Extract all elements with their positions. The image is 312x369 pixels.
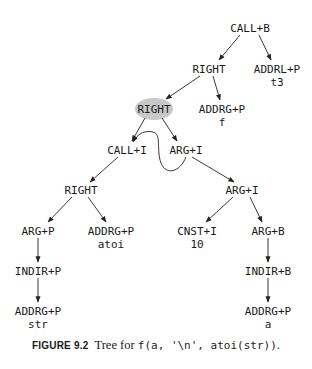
node-n1: CALL+B [230, 22, 270, 35]
figure-caption: FIGURE 9.2Tree for f(a, '\n', atoi(str))… [0, 338, 312, 353]
node-n9: ARG+I [225, 184, 258, 197]
node-n12: CNST+I [177, 225, 217, 238]
node-n17-arg: a [265, 318, 272, 331]
node-n5-arg: f [219, 116, 226, 129]
edge-n8-n10 [48, 197, 72, 222]
edge-n4-n6 [132, 118, 145, 141]
node-n2: RIGHT [192, 63, 225, 76]
node-n11-arg: atoi [98, 238, 125, 251]
node-n3: ADDRL+P [254, 63, 301, 76]
figure-label: FIGURE 9.2 [32, 340, 88, 351]
node-n5: ADDRG+P [199, 103, 246, 116]
edge-n1-n2 [219, 35, 240, 60]
edge-n1-n3 [259, 35, 271, 60]
node-n7: ARG+I [169, 144, 202, 157]
node-n15: INDIR+B [245, 265, 292, 278]
caption-text: Tree for [94, 338, 137, 352]
node-n10: ARG+P [21, 225, 54, 238]
node-n6: CALL+I [107, 144, 147, 157]
caption-end: . [277, 338, 280, 352]
node-n16-arg: str [28, 318, 48, 331]
edges [38, 35, 271, 302]
node-n11: ADDRG+P [88, 225, 135, 238]
edge-n6-n8 [90, 157, 118, 182]
expression-tree-diagram: CALL+B RIGHT ADDRL+P t3 RIGHT ADDRG+P f … [0, 0, 312, 369]
node-n16: ADDRG+P [15, 305, 62, 318]
node-n3-arg: t3 [270, 76, 283, 89]
nodes: CALL+B RIGHT ADDRL+P t3 RIGHT ADDRG+P f … [15, 22, 301, 331]
edge-n2-n4 [166, 76, 200, 99]
edge-n9-n13 [250, 197, 262, 222]
node-n12-arg: 10 [190, 238, 203, 251]
edge-n9-n12 [206, 197, 233, 222]
caption-code: f(a, '\n', atoi(str)) [138, 339, 277, 352]
node-n8: RIGHT [64, 184, 97, 197]
node-n4: RIGHT [137, 103, 170, 116]
node-n17: ADDRG+P [245, 305, 292, 318]
edge-n2-n5 [213, 76, 220, 100]
edge-n4-n7 [162, 118, 177, 141]
edge-n7-n9 [192, 157, 234, 182]
node-n13: ARG+B [251, 225, 284, 238]
edge-n8-n11 [88, 197, 106, 222]
node-n14: INDIR+P [15, 265, 62, 278]
